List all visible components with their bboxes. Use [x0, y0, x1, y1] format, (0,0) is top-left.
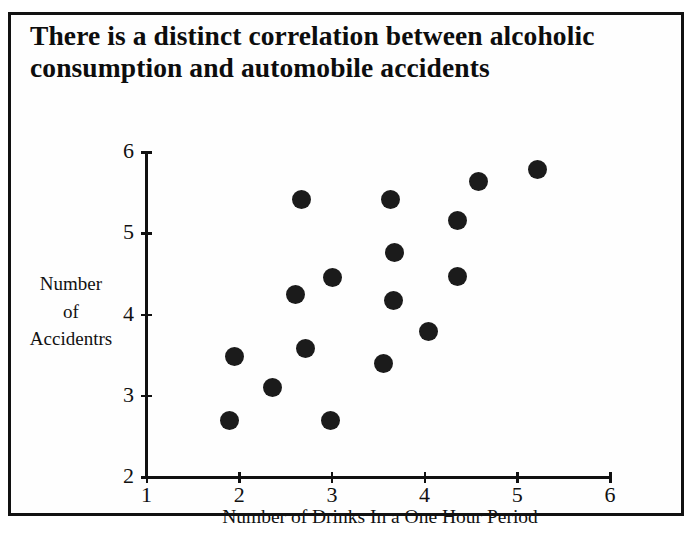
scatter-point	[448, 211, 467, 230]
x-tick-label: 4	[412, 484, 438, 506]
scatter-point	[374, 354, 393, 373]
scatter-point	[220, 411, 239, 430]
x-tick-label: 6	[597, 484, 623, 506]
y-tick-label: 5	[108, 221, 134, 243]
y-tick-mark	[141, 232, 152, 235]
scatter-point	[381, 190, 400, 209]
scatter-point	[321, 411, 340, 430]
y-axis-title: Number of Accidentrs	[16, 270, 126, 353]
y-tick-label: 3	[108, 384, 134, 406]
x-tick-label: 5	[504, 484, 530, 506]
y-axis-title-line-1: Number	[16, 270, 126, 298]
scatter-point	[385, 243, 404, 262]
x-axis-title: Number of Drinks In a One Hour Period	[145, 506, 615, 528]
x-axis-line	[145, 476, 611, 479]
scatter-point	[292, 190, 311, 209]
scatter-plot: 23456 123456 Number of Accidentrs Number…	[0, 0, 698, 536]
scatter-point	[225, 347, 244, 366]
scatter-point	[419, 322, 438, 341]
scatter-point	[448, 267, 467, 286]
x-tick-label: 3	[319, 484, 345, 506]
scatter-point	[528, 160, 547, 179]
scatter-point	[263, 378, 282, 397]
y-tick-mark	[141, 151, 152, 154]
scatter-point	[323, 268, 342, 287]
y-axis-title-line-2: of	[16, 298, 126, 326]
y-tick-mark	[141, 314, 152, 317]
y-tick-mark	[141, 395, 152, 398]
scatter-point	[296, 339, 315, 358]
x-tick-label: 2	[226, 484, 252, 506]
scatter-point	[469, 172, 488, 191]
x-tick-label: 1	[134, 484, 160, 506]
scatter-point	[286, 285, 305, 304]
y-tick-label: 2	[108, 465, 134, 487]
figure-page: There is a distinct correlation between …	[0, 0, 698, 536]
y-axis-title-line-3: Accidentrs	[16, 325, 126, 353]
y-tick-label: 6	[108, 140, 134, 162]
scatter-point	[384, 291, 403, 310]
